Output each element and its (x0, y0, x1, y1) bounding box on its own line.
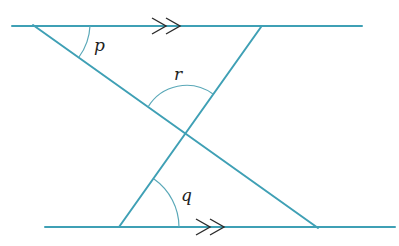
angle-q-arc (154, 179, 179, 227)
angle-r-arc (148, 85, 213, 107)
angle-p-arc (79, 26, 90, 57)
transversal-a (33, 25, 318, 228)
angle-r-label: r (174, 64, 183, 84)
angle-q-label: q (181, 185, 192, 205)
angle-p-label: p (94, 35, 105, 55)
parallel-lines-diagram: p r q (0, 0, 399, 246)
